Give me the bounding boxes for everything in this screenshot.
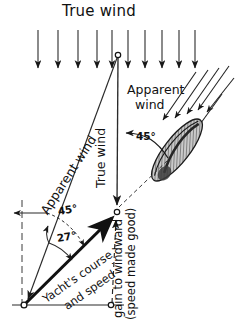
true-wind-vector	[117, 57, 118, 205]
gain-to-windward-label: gain to windward	[113, 219, 125, 318]
apparent-wind-arrow-icon	[187, 68, 219, 114]
boat-hull-icon	[144, 112, 210, 187]
true-wind-arrow-field	[38, 30, 195, 68]
vertex-true-wind-origin	[115, 52, 120, 57]
angle-label-boat-45: 45°	[136, 131, 156, 142]
apparent-wind-arrow-icon	[207, 78, 234, 112]
sailing-vector-diagram: True wind Apparent wind 45° 45° 27° True…	[0, 0, 235, 327]
true-wind-vector-label: True wind	[95, 128, 108, 188]
apparent-wind-field-label-line1: Apparent	[127, 84, 184, 97]
angle-arc-27	[49, 243, 72, 260]
angle-arc-27-upper	[47, 226, 49, 243]
boat-heading-dashed-line	[119, 160, 168, 207]
speed-made-good-label: (speed made good)	[126, 208, 138, 320]
vertex-velocity-junction	[114, 209, 119, 214]
diagram-title: True wind	[62, 4, 136, 19]
apparent-wind-field-label-line2: wind	[135, 99, 165, 112]
vertex-yacht-position	[21, 302, 27, 308]
